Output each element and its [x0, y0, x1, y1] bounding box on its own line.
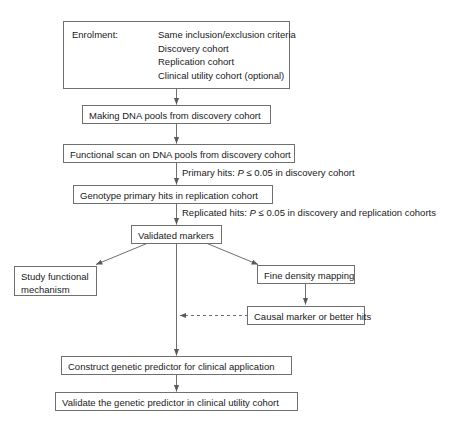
- enrolment-item: Discovery cohort: [158, 42, 296, 56]
- annotation-primary-hits-prefix: Primary hits:: [182, 167, 237, 178]
- node-validated-markers: Validated markers: [131, 225, 222, 244]
- enrolment-item: Replication cohort: [158, 55, 296, 69]
- annotation-primary-hits-suffix: ≤ 0.05 in discovery cohort: [244, 167, 355, 178]
- node-functional-scan: Functional scan on DNA pools from discov…: [63, 144, 295, 163]
- enrolment-label: Enrolment:: [72, 28, 158, 41]
- node-causal-marker: Causal marker or better hits: [247, 306, 365, 325]
- enrolment-item: Same inclusion/exclusion criteria: [158, 28, 296, 42]
- enrolment-item: Clinical utility cohort (optional): [158, 69, 296, 83]
- node-study-functional-mechanism: Study functional mechanism: [14, 266, 97, 296]
- annotation-primary-hits: Primary hits: P ≤ 0.05 in discovery coho…: [182, 167, 355, 179]
- node-genotype-primary-hits: Genotype primary hits in replication coh…: [73, 185, 273, 204]
- node-making-dna-pools: Making DNA pools from discovery cohort: [82, 105, 271, 124]
- annotation-replicated-hits-prefix: Replicated hits:: [182, 207, 250, 218]
- enrolment-items: Same inclusion/exclusion criteria Discov…: [158, 28, 296, 82]
- node-fine-density-mapping: Fine density mapping: [257, 265, 355, 284]
- flowchart-diagram: Enrolment: Same inclusion/exclusion crit…: [0, 0, 470, 427]
- annotation-replicated-hits: Replicated hits: P ≤ 0.05 in discovery a…: [182, 207, 436, 219]
- annotation-replicated-hits-suffix: ≤ 0.05 in discovery and replication coho…: [256, 207, 436, 218]
- node-validate-predictor: Validate the genetic predictor in clinic…: [55, 392, 298, 411]
- node-enrolment: Enrolment: Same inclusion/exclusion crit…: [63, 21, 290, 89]
- node-construct-predictor: Construct genetic predictor for clinical…: [61, 356, 292, 375]
